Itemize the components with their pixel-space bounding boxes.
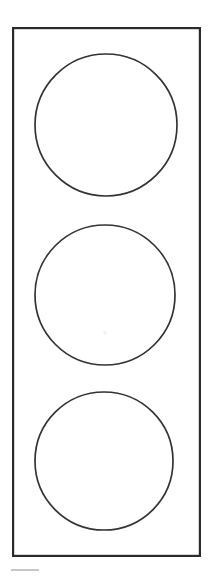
scan-smudge-icon — [103, 331, 107, 335]
lamp-red — [35, 54, 177, 196]
traffic-light-drawing — [0, 0, 213, 577]
drawing-canvas: Traffic Light — [0, 0, 213, 577]
lamp-green — [35, 392, 173, 530]
lamp-amber — [35, 225, 175, 365]
